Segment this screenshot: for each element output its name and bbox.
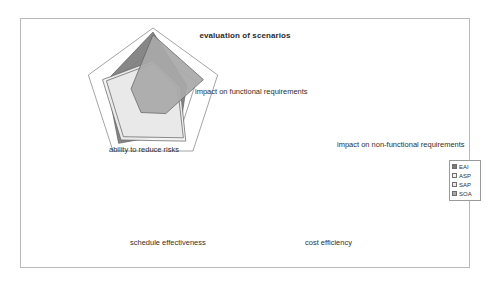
chart-legend: EAI ASP SAP SOA	[449, 160, 481, 201]
legend-label-eai: EAI	[459, 164, 469, 170]
legend-swatch-sap	[452, 182, 457, 187]
chart-frame: evaluation of scenarios impact on functi…	[20, 18, 470, 268]
axis-label-functional-requirements: impact on functional requirements	[195, 88, 308, 96]
axis-label-cost-efficiency: cost efficiency	[305, 239, 352, 247]
legend-item-sap[interactable]: SAP	[452, 180, 479, 189]
legend-label-sap: SAP	[459, 182, 471, 188]
legend-label-soa: SOA	[459, 191, 472, 197]
legend-swatch-eai	[452, 164, 457, 169]
axis-label-ability-to-reduce-risks: ability to reduce risks	[109, 146, 179, 154]
legend-swatch-soa	[452, 191, 457, 196]
axis-label-schedule-effectiveness: schedule effectiveness	[130, 239, 206, 247]
legend-item-soa[interactable]: SOA	[452, 189, 479, 198]
axis-label-non-functional-requirements: impact on non-functional requirements	[337, 141, 465, 149]
legend-item-eai[interactable]: EAI	[452, 162, 479, 171]
legend-label-asp: ASP	[459, 173, 471, 179]
legend-swatch-asp	[452, 173, 457, 178]
legend-item-asp[interactable]: ASP	[452, 171, 479, 180]
